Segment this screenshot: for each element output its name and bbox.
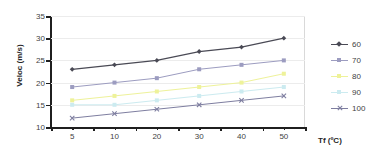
y-axis-title-label: Veloc (m/s): [15, 44, 24, 86]
legend-swatch-icon: [331, 55, 348, 65]
x-axis-tick-label: 10: [110, 132, 119, 141]
legend-swatch-icon: [331, 39, 348, 49]
legend-label: 100: [352, 104, 365, 113]
legend-item-90[interactable]: 90: [331, 84, 389, 100]
series-line: [72, 38, 284, 69]
legend-label: 90: [352, 88, 361, 97]
data-point-marker: [240, 81, 244, 85]
data-point-marker: [197, 85, 201, 89]
y-axis-tick: [46, 38, 50, 40]
data-point-marker: [113, 94, 117, 98]
legend-item-60[interactable]: 60: [331, 36, 389, 52]
y-axis-tick-label: 25: [36, 56, 45, 65]
data-point-marker: [113, 103, 117, 107]
legend-label: 80: [352, 72, 361, 81]
y-axis-tick-label: 20: [36, 78, 45, 87]
x-axis-tick-boundary: [220, 127, 222, 131]
y-axis-tick: [46, 105, 50, 107]
plot-area: [51, 16, 305, 127]
data-point-marker: [282, 58, 286, 62]
x-axis-tick: [284, 127, 286, 130]
data-point-marker: [282, 72, 286, 76]
data-point-marker: [282, 85, 286, 89]
data-point-marker: [239, 45, 244, 50]
data-point-marker: [70, 98, 74, 102]
legend-label: 70: [352, 56, 361, 65]
data-point-marker: [70, 67, 75, 72]
data-point-marker: [70, 103, 74, 107]
legend-swatch-icon: [331, 87, 348, 97]
data-point-marker: [113, 81, 117, 85]
x-axis-tick-label: 20: [152, 132, 161, 141]
y-axis-tick-label: 15: [36, 100, 45, 109]
data-point-marker: [197, 49, 202, 54]
x-axis-tick-boundary: [305, 127, 307, 131]
y-axis-tick-label: 10: [36, 123, 45, 132]
data-point-marker: [155, 76, 159, 80]
x-axis-tick-boundary: [51, 127, 53, 131]
legend-item-100[interactable]: 100: [331, 100, 389, 116]
x-axis-tick-labels: 51020304050: [51, 132, 305, 146]
series-line: [72, 60, 284, 87]
x-axis-tick: [115, 127, 117, 130]
x-axis-tick-label: 40: [237, 132, 246, 141]
legend-swatch-icon: [331, 71, 348, 81]
y-axis-tick: [46, 127, 50, 129]
data-point-marker: [70, 85, 74, 89]
line-chart: Veloc (m/s) 101520253035 51020304050 Tf …: [0, 0, 390, 164]
legend-item-70[interactable]: 70: [331, 52, 389, 68]
x-axis-tick-label: 30: [195, 132, 204, 141]
y-axis-tick-label: 35: [36, 12, 45, 21]
y-axis-tick: [46, 83, 50, 85]
data-point-marker: [240, 89, 244, 93]
x-axis-tick-boundary: [93, 127, 95, 131]
series-60: [70, 36, 286, 72]
chart-legend: 60708090100: [331, 36, 389, 116]
data-point-marker: [112, 62, 117, 67]
x-axis-title: Tf (ºC): [318, 136, 342, 145]
x-axis-tick-label: 5: [70, 132, 74, 141]
legend-label: 60: [352, 40, 361, 49]
series-90: [70, 85, 286, 107]
y-axis-tick-labels: 101520253035: [27, 16, 48, 127]
data-point-marker: [240, 63, 244, 67]
y-axis-tick: [46, 60, 50, 62]
x-axis-tick-label: 50: [279, 132, 288, 141]
x-axis-tick: [157, 127, 159, 130]
x-axis-tick-boundary: [136, 127, 138, 131]
data-point-marker: [155, 89, 159, 93]
x-axis-tick: [72, 127, 74, 130]
y-axis-tick: [46, 16, 50, 18]
series-layer: [51, 16, 305, 127]
series-70: [70, 58, 286, 89]
legend-swatch-icon: [331, 103, 348, 113]
y-axis-tick-label: 30: [36, 34, 45, 43]
series-line: [72, 96, 284, 118]
data-point-marker: [197, 94, 201, 98]
data-point-marker: [155, 98, 159, 102]
data-point-marker: [281, 36, 286, 41]
x-axis-tick-boundary: [178, 127, 180, 131]
x-axis-tick: [242, 127, 244, 130]
data-point-marker: [154, 58, 159, 63]
legend-item-80[interactable]: 80: [331, 68, 389, 84]
x-axis-tick-boundary: [263, 127, 265, 131]
data-point-marker: [197, 67, 201, 71]
series-line: [72, 74, 284, 101]
x-axis-tick: [199, 127, 201, 130]
